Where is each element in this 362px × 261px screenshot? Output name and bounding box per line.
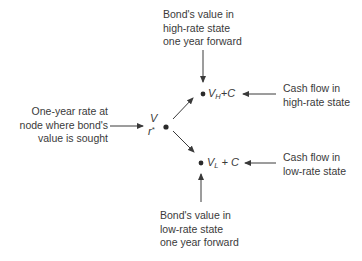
arrow-root-to-low <box>173 131 194 152</box>
node-root-value: V <box>150 112 157 124</box>
label-cashflow-low: Cash flow in low-rate state <box>283 151 346 178</box>
label-low-value: Bond's value in low-rate state one year … <box>160 209 239 250</box>
node-root-rate: r* <box>148 125 155 137</box>
node-high-value: VH+C <box>208 87 235 101</box>
node-high-dot <box>201 92 206 97</box>
node-root-dot <box>163 124 168 129</box>
node-low-value: VL + C <box>207 156 239 170</box>
arrow-root-to-high <box>173 98 193 119</box>
label-high-value: Bond's value in high-rate state one year… <box>163 8 242 49</box>
label-one-year-rate: One-year rate at node where bond's value… <box>12 105 108 146</box>
node-low-dot <box>199 161 204 166</box>
label-cashflow-high: Cash flow in high-rate state <box>283 82 350 109</box>
